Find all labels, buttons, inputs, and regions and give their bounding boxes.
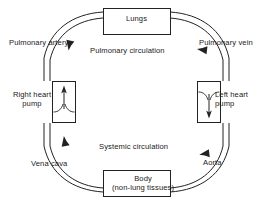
body-label-primary: Body — [134, 174, 152, 183]
left-heart-pump-label-line1: Left heart — [215, 90, 248, 99]
arrow-down-icon-vena-cava — [58, 136, 72, 150]
circulatory-diagram: Lungs Body (non-lung tissues) Right hear… — [0, 0, 271, 204]
right-heart-pump-box — [53, 82, 76, 123]
body-label-secondary: (non-lung tissues) — [103, 183, 183, 192]
systemic-circulation-label: Systemic circulation — [99, 142, 168, 151]
vena-cava-label: Vena cava — [31, 159, 67, 168]
pulmonary-circulation-label: Pulmonary circulation — [90, 46, 165, 55]
left-heart-pump-label: Left heart pump — [215, 90, 263, 109]
pulmonary-artery-label: Pulmonary artery — [9, 38, 68, 47]
right-heart-pump-label-line2: pump — [22, 99, 41, 108]
lungs-label: Lungs — [103, 14, 170, 23]
aorta-label: Aorta — [203, 158, 222, 167]
left-heart-pump-label-line2: pump — [215, 99, 234, 108]
body-label: Body (non-lung tissues) — [103, 174, 183, 193]
pulmonary-vein-label: Pulmonary vein — [199, 38, 253, 47]
right-heart-pump-label: Right heart pump — [10, 90, 54, 109]
right-heart-pump-label-line1: Right heart — [13, 90, 51, 99]
